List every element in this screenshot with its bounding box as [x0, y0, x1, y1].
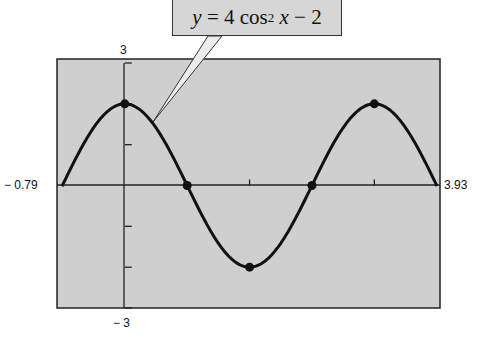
minimum-point [245, 263, 254, 272]
zero-point [183, 181, 192, 190]
equation-lhs: y [192, 5, 201, 30]
chart-canvas [0, 0, 477, 337]
equation-eq: = 4 cos [202, 5, 268, 30]
zero-point [307, 181, 316, 190]
ymin-label: − 3 [113, 316, 130, 330]
equation-rest: − 2 [289, 5, 322, 30]
ymax-label: 3 [120, 43, 127, 57]
equation-var: x [274, 5, 289, 30]
xmin-label: − 0.79 [4, 178, 38, 192]
maximum-point [120, 99, 129, 108]
maximum-point [370, 99, 379, 108]
equation-callout: y = 4 cos 2 x − 2 [172, 0, 342, 36]
xmax-label: 3.93 [444, 178, 467, 192]
